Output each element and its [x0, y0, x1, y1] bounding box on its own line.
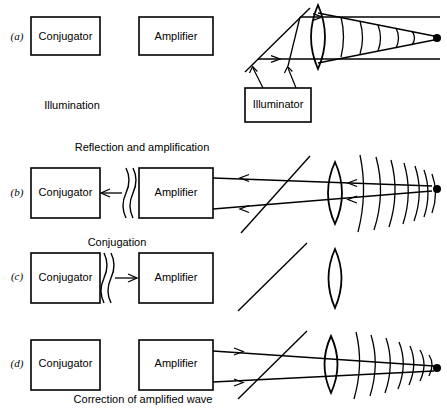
- panel-c-caption: Conjugation: [88, 236, 147, 248]
- panel-d-tag: (d): [11, 357, 24, 370]
- panel-b-wavefront-6: [424, 170, 428, 217]
- panel-a-wavefront-4: [396, 28, 399, 48]
- panel-a-wavefront-3: [378, 25, 381, 51]
- panel-d-caption: Correction of amplified wave: [74, 393, 213, 405]
- panel-b-caption: Reflection and amplification: [75, 141, 210, 153]
- panel-d-amplifier-box: Amplifier: [139, 340, 213, 390]
- panel-c-amplifier-box: Amplifier: [139, 253, 213, 303]
- panel-b-wavefront-1: [358, 155, 364, 232]
- panel-b-wavefront-5: [414, 166, 419, 221]
- conjugator-box-label: Conjugator: [39, 30, 93, 42]
- panel-b-wavefront-2: [374, 157, 381, 230]
- panel-d-conjugator-box: Conjugator: [31, 340, 100, 390]
- panel-b-upper-ray-arrow: [240, 175, 249, 182]
- panel-b-wavy-symbol-1: [123, 168, 129, 218]
- panel-c-tag: (c): [11, 270, 24, 283]
- panel-b-focal-point: [433, 185, 441, 193]
- panel-a-wavefront-2: [360, 21, 363, 54]
- conjugator-box-label: Conjugator: [39, 357, 93, 369]
- panel-d-focal-point: [433, 364, 441, 372]
- panel-a-caption: Illumination: [44, 99, 100, 111]
- panel-b-wavy-symbol-2: [130, 168, 136, 218]
- panel-c: (c) Conjugation Conjugator Amplifier: [11, 236, 342, 311]
- illuminator-box-label: Illuminator: [253, 98, 304, 110]
- panel-d-beam-splitter: [238, 331, 307, 399]
- panel-a-conjugator-box: Conjugator: [31, 17, 100, 55]
- panel-b: (b) Reflection and amplification Conjuga…: [11, 141, 441, 233]
- amplifier-box-label: Amplifier: [155, 186, 198, 198]
- panel-a-tag: (a): [11, 30, 24, 43]
- conjugator-box-label: Conjugator: [39, 186, 93, 198]
- figure-canvas: (a) Conjugator Amplifier: [0, 0, 447, 410]
- panel-d-wavefront-3: [385, 338, 390, 393]
- panel-a: (a) Conjugator Amplifier: [11, 5, 441, 122]
- panel-b-conjugator-box: Conjugator: [31, 168, 100, 218]
- panel-a-wavefront-5: [412, 31, 415, 45]
- panel-c-conjugator-box: Conjugator: [31, 253, 100, 303]
- panel-b-beam-splitter: [241, 156, 310, 233]
- panel-a-focal-point: [433, 34, 441, 42]
- panel-a-illuminator-box: Illuminator: [245, 88, 311, 122]
- panel-d-lens: [325, 336, 338, 393]
- panel-c-lens: [329, 249, 342, 308]
- panel-a-amplifier-box: Amplifier: [139, 17, 213, 55]
- conjugator-box-label: Conjugator: [39, 271, 93, 283]
- panel-d-wavefront-5: [409, 346, 414, 385]
- panel-d: (d) Conjugator Amplifier: [11, 331, 441, 405]
- panel-d-wavefront-1: [354, 332, 360, 399]
- panel-d-wavefront-2: [370, 335, 375, 396]
- amplifier-box-label: Amplifier: [155, 271, 198, 283]
- panel-a-wavefront-1: [341, 17, 344, 57]
- panel-c-wavy-symbol-1: [101, 253, 107, 303]
- panel-b-tag: (b): [11, 186, 24, 199]
- panel-d-wavefront-4: [398, 342, 403, 389]
- panel-c-beam-splitter: [238, 243, 307, 311]
- panel-b-lens: [328, 162, 342, 224]
- panel-d-upper-ray: [213, 351, 434, 366]
- panel-a-illum-ray-left: [253, 68, 263, 88]
- amplifier-box-label: Amplifier: [155, 357, 198, 369]
- panel-b-amplifier-box: Amplifier: [139, 168, 213, 218]
- panel-b-wavefront-7: [432, 174, 436, 213]
- panel-b-upper-ray: [213, 178, 432, 186]
- panel-d-upper-ray-arrow: [234, 348, 243, 355]
- phase-conjugation-figure: (a) Conjugator Amplifier: [0, 0, 447, 410]
- panel-c-wavy-symbol-2: [108, 253, 114, 303]
- amplifier-box-label: Amplifier: [155, 30, 198, 42]
